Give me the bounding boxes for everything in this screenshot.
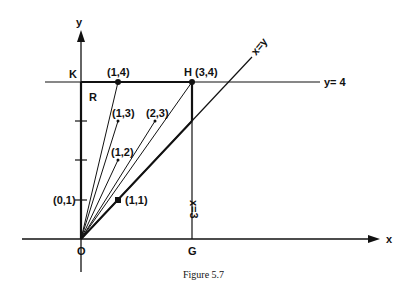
label-G: G xyxy=(188,245,197,257)
label-1-3: (1,3) xyxy=(112,107,135,119)
x-axis-label: x xyxy=(386,233,393,245)
ray-H xyxy=(81,82,192,239)
label-2-3: (2,3) xyxy=(146,107,169,119)
ray-1-3 xyxy=(81,121,118,239)
label-O: O xyxy=(77,245,86,257)
x-axis-arrow-icon xyxy=(368,235,380,243)
point-1-1 xyxy=(115,197,121,203)
y-axis-arrow-icon xyxy=(77,30,85,42)
y-axis-label: y xyxy=(76,16,83,28)
ray-2-3 xyxy=(81,121,155,239)
label-1-2: (1,2) xyxy=(111,146,134,158)
point-1-4 xyxy=(115,79,121,85)
label-K: K xyxy=(69,68,77,80)
line-xy-thick xyxy=(81,121,192,239)
label-1-1: (1,1) xyxy=(125,194,148,206)
label-R: R xyxy=(89,91,97,103)
label-y4: y= 4 xyxy=(324,76,347,88)
point-1-3 xyxy=(117,120,120,123)
point-1-2 xyxy=(117,159,120,162)
label-0-1: (0,1) xyxy=(53,194,76,206)
figure-diagram: y x K (1,4) H (3,4) R (1,3) (2,3) (1,2) … xyxy=(0,0,412,297)
label-x3: x=3 xyxy=(188,200,200,219)
point-2-3 xyxy=(154,120,157,123)
label-xy: x=y xyxy=(248,35,270,58)
label-1-4: (1,4) xyxy=(107,66,130,78)
label-H: H (3,4) xyxy=(184,66,218,78)
figure-caption: Figure 5.7 xyxy=(183,269,224,280)
point-H xyxy=(189,79,195,85)
